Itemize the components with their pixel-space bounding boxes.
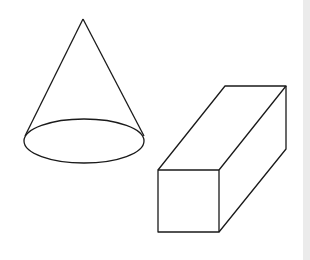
rectangular-prism <box>158 86 286 232</box>
cone-left-edge <box>25 19 83 136</box>
prism-top-face <box>158 86 286 170</box>
prism-right-face <box>219 86 286 232</box>
geometry-diagram <box>0 0 310 260</box>
cone-right-edge <box>83 19 144 136</box>
side-scrollbar-strip <box>303 0 310 260</box>
cone-base-ellipse <box>24 119 144 163</box>
cone <box>24 19 144 163</box>
prism-front-face <box>158 170 219 232</box>
